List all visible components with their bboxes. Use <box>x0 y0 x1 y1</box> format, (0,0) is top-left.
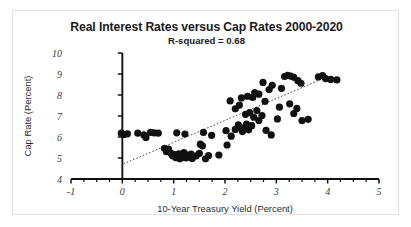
data-point <box>269 82 276 89</box>
data-point <box>278 85 285 92</box>
x-tick-label: 1 <box>171 186 176 197</box>
trendline <box>123 80 320 164</box>
x-axis-title: 10-Year Treasury Yield (Percent) <box>157 203 293 214</box>
x-tick-label: 0 <box>120 186 125 197</box>
data-point <box>333 76 340 83</box>
x-tick-label: 3 <box>273 186 279 197</box>
data-point <box>200 129 207 136</box>
data-point <box>236 101 243 108</box>
x-tick-label: 5 <box>377 186 382 197</box>
data-point <box>173 129 180 136</box>
data-point <box>258 112 265 119</box>
y-tick-label: 8 <box>57 90 62 101</box>
y-tick-label: 9 <box>57 69 62 80</box>
data-point <box>222 127 229 134</box>
y-axis-tick-labels: 45678910 <box>52 48 63 185</box>
data-point <box>196 150 203 157</box>
data-point <box>124 130 131 137</box>
y-tick-label: 6 <box>57 132 62 143</box>
y-tick-label: 7 <box>57 111 63 122</box>
data-point <box>286 100 293 107</box>
data-point <box>251 89 258 96</box>
data-point <box>208 132 215 139</box>
chart-container: Real Interest Rates versus Cap Rates 200… <box>12 10 399 215</box>
data-point <box>305 116 312 123</box>
data-point <box>134 130 141 137</box>
scatter-plot: 45678910 -1012345 Cap Rate (Percent) 10-… <box>13 11 400 216</box>
data-point <box>244 93 251 100</box>
data-point <box>253 107 260 114</box>
data-point <box>261 98 268 105</box>
data-point <box>205 152 212 159</box>
data-point <box>155 130 162 137</box>
data-point <box>215 151 222 158</box>
data-point <box>238 94 245 101</box>
y-tick-label: 4 <box>57 174 62 185</box>
data-point <box>276 104 283 111</box>
data-point <box>227 97 234 104</box>
data-point <box>274 115 281 122</box>
data-point <box>199 142 206 149</box>
y-tick-label: 5 <box>57 153 62 164</box>
x-tick-label: 4 <box>325 186 330 197</box>
data-point <box>327 76 334 83</box>
data-point <box>298 117 305 124</box>
x-axis-tick-labels: -1012345 <box>67 186 382 197</box>
data-point <box>228 133 235 140</box>
x-tick-label: -1 <box>67 186 75 197</box>
y-axis-title: Cap Rate (Percent) <box>22 76 33 157</box>
data-point <box>293 105 300 112</box>
data-point <box>259 79 266 86</box>
y-tick-label: 10 <box>52 48 62 59</box>
data-point <box>248 122 255 129</box>
data-point <box>181 130 188 137</box>
data-point <box>223 141 230 148</box>
data-point <box>268 131 275 138</box>
data-point <box>297 80 304 87</box>
x-tick-label: 2 <box>223 186 228 197</box>
